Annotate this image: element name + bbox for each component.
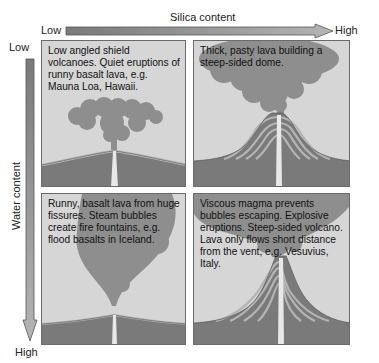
panel-caption: Runny, basalt lava from huge fissures. S…	[48, 198, 181, 246]
x-axis-low-label: Low	[41, 24, 61, 36]
y-axis-low-label: Low	[9, 41, 29, 53]
panel-explosive-stratovolcano: Viscous magma prevents bubbles escaping.…	[193, 193, 350, 345]
panel-caption: Viscous magma prevents bubbles escaping.…	[200, 198, 345, 270]
panel-caption: Low angled shield volcanoes. Quiet erupt…	[48, 45, 181, 93]
x-axis-high-label: High	[335, 24, 358, 36]
panel-lava-dome: Thick, pasty lava building a steep-sided…	[193, 40, 350, 187]
panel-shield-volcano: Low angled shield volcanoes. Quiet erupt…	[41, 40, 186, 187]
x-axis-title: Silica content	[170, 11, 235, 23]
silica-arrow-icon	[65, 23, 335, 39]
panel-caption: Thick, pasty lava building a steep-sided…	[200, 45, 345, 69]
water-arrow-icon	[22, 58, 38, 343]
y-axis-high-label: High	[15, 346, 38, 358]
y-axis-title: Water content	[10, 162, 22, 230]
panel-fissure-eruption: Runny, basalt lava from huge fissures. S…	[41, 193, 186, 345]
